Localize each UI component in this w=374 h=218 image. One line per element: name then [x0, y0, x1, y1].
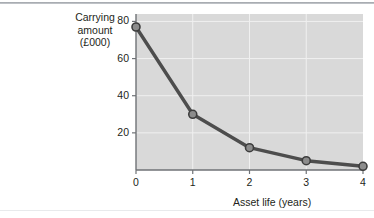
chart-plot: Carrying amount (£000) Asset life (years…	[0, 0, 374, 218]
y-axis-title-line-3: (£000)	[62, 36, 128, 49]
x-tick-label: 3	[296, 176, 316, 188]
data-point-marker	[302, 157, 310, 165]
x-axis-title: Asset life (years)	[233, 196, 311, 208]
y-tick-label: 20	[103, 126, 129, 138]
figure-container: Carrying amount (£000) Asset life (years…	[0, 0, 374, 218]
y-tick-label: 80	[103, 14, 129, 26]
x-tick-label: 2	[240, 176, 260, 188]
data-point-marker	[132, 23, 140, 31]
x-tick-label: 4	[353, 176, 373, 188]
data-point-marker	[189, 110, 197, 118]
y-tick-label: 60	[103, 52, 129, 64]
y-tick-label: 40	[103, 89, 129, 101]
data-point-marker	[246, 144, 254, 152]
x-tick-label: 0	[126, 176, 146, 188]
x-tick-label: 1	[183, 176, 203, 188]
data-point-marker	[359, 162, 367, 170]
